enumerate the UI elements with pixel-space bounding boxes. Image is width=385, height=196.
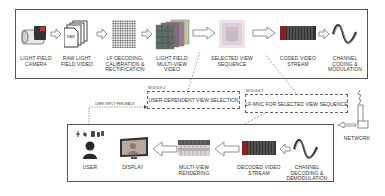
feedback-label: User input feedback bbox=[95, 102, 135, 106]
module2-title: LF-MVC for Selected View Sequence bbox=[246, 101, 348, 107]
flow-arrow-left-icon bbox=[279, 143, 291, 155]
input-devices-icon bbox=[76, 130, 106, 138]
module2-box: LF-MVC for Selected View Sequence bbox=[245, 94, 348, 113]
flow-arrow-left-icon bbox=[152, 141, 178, 157]
label-line: Rendering bbox=[174, 171, 214, 177]
stage-label-user: User bbox=[75, 165, 105, 171]
monitor-icon bbox=[118, 136, 150, 161]
network-label: Network bbox=[340, 136, 374, 142]
bitstream-icon bbox=[242, 141, 276, 155]
network-antenna-icon bbox=[336, 88, 370, 130]
module2-tag: Module 2 bbox=[246, 89, 263, 93]
label-line: Demodulation bbox=[284, 176, 330, 182]
label-line: Display bbox=[116, 165, 150, 171]
module1-tag: Module 1 bbox=[148, 86, 165, 90]
multiview-render-icon bbox=[178, 140, 210, 156]
module1-title: User-dependent View Selection bbox=[148, 97, 238, 103]
label-line: Stream bbox=[236, 171, 282, 177]
flow-arrow-left-icon bbox=[214, 141, 240, 157]
stage-label-rendering: Multi-view Rendering bbox=[174, 165, 214, 176]
label-line: User bbox=[75, 165, 105, 171]
stage-label-channel-decoding: Channel Decoding & Demodulation bbox=[284, 165, 330, 182]
stage-label-display: Display bbox=[116, 165, 150, 171]
user-icon bbox=[82, 141, 98, 159]
stage-label-decoded: Decoded Video Stream bbox=[236, 165, 282, 176]
module1-box: User-dependent View Selection bbox=[147, 91, 240, 109]
waveform-icon bbox=[293, 139, 319, 159]
